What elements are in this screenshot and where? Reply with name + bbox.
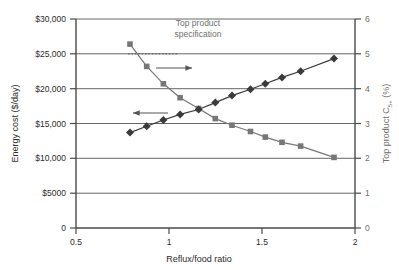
ytick-label-5000: $5000 — [42, 188, 66, 198]
marker-top-product-11 — [331, 155, 337, 161]
y2-axis-title-tail: (%) — [381, 84, 391, 101]
marker-top-product-2 — [161, 81, 167, 87]
y2tick-label-4: 4 — [365, 84, 370, 94]
ytick-label-25000: $25,000 — [35, 49, 66, 59]
chart-container: $30,000 $25,000 $20,000 $15,000 $10,000 … — [0, 0, 399, 270]
right-axis-ticks — [355, 19, 361, 228]
bottom-axis-ticks — [76, 228, 355, 234]
y2tick-label-3: 3 — [365, 119, 370, 129]
ytick-label-0: 0 — [61, 223, 66, 233]
marker-top-product-3 — [177, 95, 183, 101]
x-axis-title: Reflux/food ratio — [166, 254, 232, 264]
annotation-line-1: Top product — [176, 18, 221, 28]
xtick-label-0p5: 0.5 — [70, 237, 82, 247]
marker-top-product-10 — [298, 143, 304, 149]
y2tick-label-5: 5 — [365, 49, 370, 59]
marker-top-product-8 — [263, 134, 269, 140]
marker-top-product-1 — [144, 64, 150, 70]
marker-top-product-0 — [127, 41, 133, 47]
y2tick-label-6: 6 — [365, 14, 370, 24]
xtick-label-1: 1 — [167, 237, 172, 247]
y2tick-label-0: 0 — [365, 223, 370, 233]
y2tick-label-2: 2 — [365, 153, 370, 163]
xtick-label-1p5: 1.5 — [256, 237, 268, 247]
left-axis-ticks — [70, 19, 76, 228]
marker-top-product-6 — [229, 122, 235, 128]
energy-cost-vs-reflux-chart: $30,000 $25,000 $20,000 $15,000 $10,000 … — [0, 0, 399, 270]
ytick-label-10000: $10,000 — [35, 153, 66, 163]
marker-top-product-9 — [279, 140, 285, 146]
y2-axis-title-main: Top product C — [381, 107, 391, 164]
y2tick-label-1: 1 — [365, 188, 370, 198]
annotation-line-2: specification — [175, 29, 222, 39]
y-axis-title: Energy cost ($/day) — [10, 84, 20, 162]
ytick-label-20000: $20,000 — [35, 84, 66, 94]
ytick-label-30000: $30,000 — [35, 14, 66, 24]
xtick-label-2: 2 — [353, 237, 358, 247]
marker-top-product-5 — [213, 116, 219, 122]
y2-axis-title: Top product C5+ (%) — [381, 84, 393, 163]
ytick-label-15000: $15,000 — [35, 119, 66, 129]
marker-top-product-7 — [248, 129, 254, 135]
